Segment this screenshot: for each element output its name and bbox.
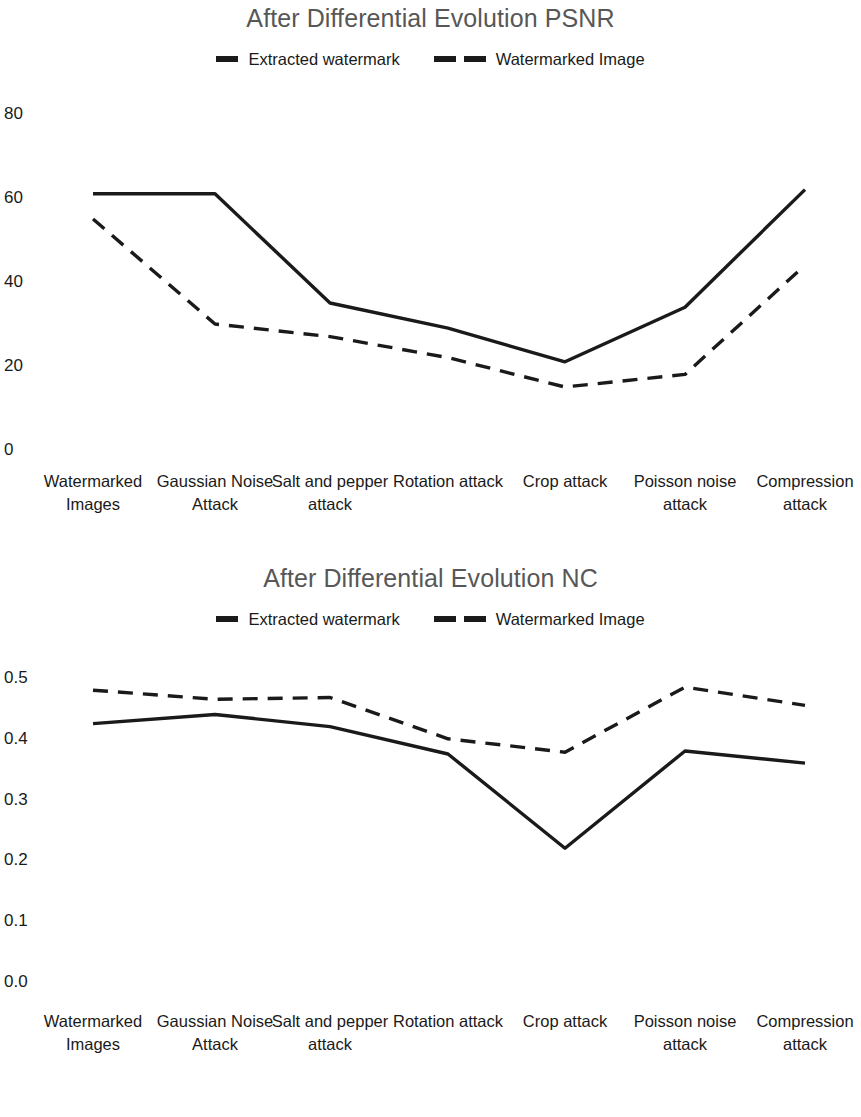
x-tick-label: Poisson noise attack — [620, 470, 750, 516]
y-tick-label: 80 — [4, 104, 23, 124]
x-tick-label: Gaussian Noise Attack — [150, 1010, 280, 1056]
plot-area-nc: 0.00.10.20.30.40.5 — [0, 630, 861, 1010]
series-line-extracted-watermark — [93, 190, 805, 362]
x-tick-label: Rotation attack — [383, 470, 513, 493]
legend-label-watermarked-image: Watermarked Image — [496, 50, 645, 68]
legend-label-watermarked-image: Watermarked Image — [496, 610, 645, 628]
plot-area-psnr: 020406080 — [0, 70, 861, 470]
y-tick-label: 60 — [4, 188, 23, 208]
chart-page: After Differential Evolution PSNR Extrac… — [0, 0, 861, 1117]
plot-lines-psnr — [0, 70, 861, 470]
figure-nc: After Differential Evolution NC Extracte… — [0, 560, 861, 1117]
y-tick-label: 0.5 — [4, 668, 28, 688]
dashed-line-swatch-icon — [434, 56, 486, 62]
y-tick-label: 0.4 — [4, 729, 28, 749]
y-tick-label: 0.2 — [4, 850, 28, 870]
series-line-watermarked-image — [93, 687, 805, 752]
legend-entry-watermarked-image[interactable]: Watermarked Image — [434, 610, 645, 628]
series-line-extracted-watermark — [93, 715, 805, 849]
x-tick-label: Compression attack — [740, 1010, 861, 1056]
legend-entry-watermarked-image[interactable]: Watermarked Image — [434, 50, 645, 68]
dashed-line-swatch-icon — [434, 616, 486, 622]
legend-entry-extracted-watermark[interactable]: Extracted watermark — [216, 610, 399, 628]
x-tick-label: Salt and pepper attack — [265, 470, 395, 516]
legend-label-extracted-watermark: Extracted watermark — [248, 50, 399, 68]
x-axis-labels-nc: Watermarked ImagesGaussian Noise AttackS… — [0, 1010, 861, 1096]
x-tick-label: Rotation attack — [383, 1010, 513, 1033]
x-tick-label: Compression attack — [740, 470, 861, 516]
legend-nc: Extracted watermark Watermarked Image — [0, 608, 861, 630]
solid-line-swatch-icon — [216, 56, 238, 62]
legend-psnr: Extracted watermark Watermarked Image — [0, 48, 861, 70]
y-tick-label: 0 — [4, 440, 13, 460]
x-tick-label: Gaussian Noise Attack — [150, 470, 280, 516]
plot-lines-nc — [0, 630, 861, 1010]
chart-title-nc: After Differential Evolution NC — [0, 560, 861, 594]
legend-label-extracted-watermark: Extracted watermark — [248, 610, 399, 628]
chart-title-psnr: After Differential Evolution PSNR — [0, 0, 861, 34]
y-tick-label: 0.1 — [4, 911, 28, 931]
series-line-watermarked-image — [93, 219, 805, 387]
x-tick-label: Watermarked Images — [28, 1010, 158, 1056]
legend-entry-extracted-watermark[interactable]: Extracted watermark — [216, 50, 399, 68]
solid-line-swatch-icon — [216, 616, 238, 622]
y-tick-label: 0.0 — [4, 972, 28, 992]
x-tick-label: Watermarked Images — [28, 470, 158, 516]
x-tick-label: Salt and pepper attack — [265, 1010, 395, 1056]
x-axis-labels-psnr: Watermarked ImagesGaussian Noise AttackS… — [0, 470, 861, 556]
x-tick-label: Poisson noise attack — [620, 1010, 750, 1056]
y-tick-label: 0.3 — [4, 790, 28, 810]
y-tick-label: 20 — [4, 356, 23, 376]
y-tick-label: 40 — [4, 272, 23, 292]
figure-psnr: After Differential Evolution PSNR Extrac… — [0, 0, 861, 545]
x-tick-label: Crop attack — [500, 1010, 630, 1033]
x-tick-label: Crop attack — [500, 470, 630, 493]
